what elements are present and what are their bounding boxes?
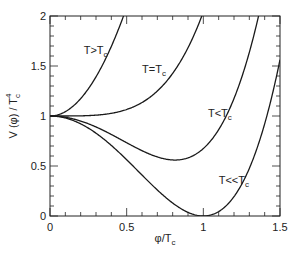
curve-tgttc <box>50 0 280 116</box>
curve-tlttc <box>50 0 280 160</box>
y-tick-labels: 00.511.52 <box>31 10 46 222</box>
x-axis-label: φ/Tc <box>155 232 176 247</box>
curve-labels: T>TcT=TcT<TcT<<Tc <box>84 44 249 189</box>
x-tick-label: 0 <box>47 221 53 233</box>
curve-label: T>Tc <box>84 44 108 59</box>
potential-chart: 00.511.5 00.511.52 T>TcT=TcT<TcT<<Tc φ/T… <box>0 0 296 256</box>
y-axis-label: V (φ) / Tc4 <box>4 93 22 139</box>
x-tick-label: 1.5 <box>272 221 287 233</box>
curve-label: T=Tc <box>142 63 166 78</box>
y-tick-label: 0 <box>40 210 46 222</box>
curve-label: T<Tc <box>208 107 232 122</box>
y-tick-label: 2 <box>40 10 46 22</box>
y-tick-label: 0.5 <box>31 160 46 172</box>
curve-teqtc <box>50 0 280 116</box>
x-tick-label: 1 <box>200 221 206 233</box>
y-tick-label: 1 <box>40 110 46 122</box>
y-tick-label: 1.5 <box>31 60 46 72</box>
x-tick-label: 0.5 <box>119 221 134 233</box>
curve-label: T<<Tc <box>219 174 249 189</box>
